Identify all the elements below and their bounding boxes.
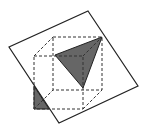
small-shaded-section: [34, 86, 49, 109]
cube-dashed-edges: [34, 37, 102, 109]
cube-plane-diagram: [0, 0, 143, 131]
